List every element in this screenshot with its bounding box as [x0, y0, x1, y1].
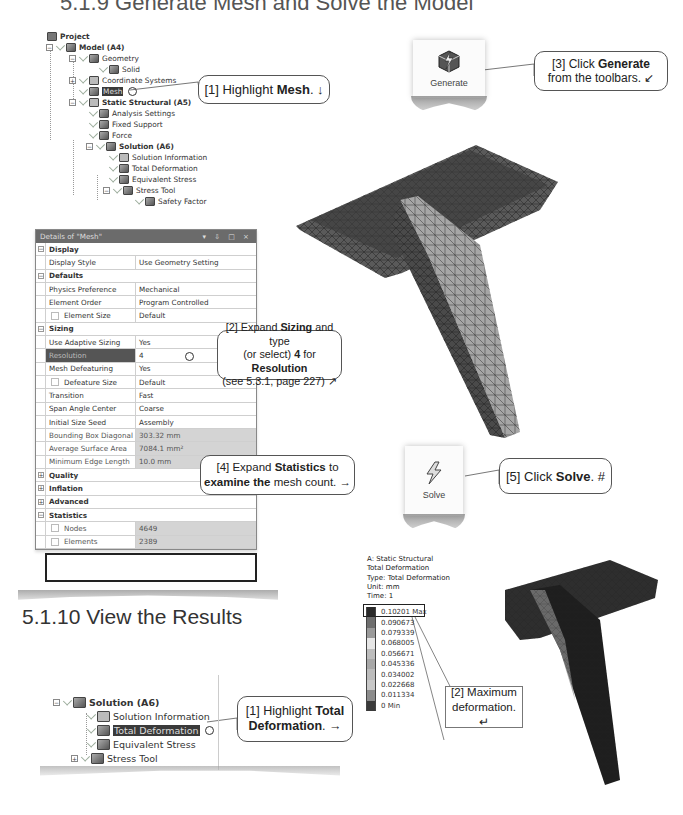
- deformation-result-image: [0, 0, 683, 815]
